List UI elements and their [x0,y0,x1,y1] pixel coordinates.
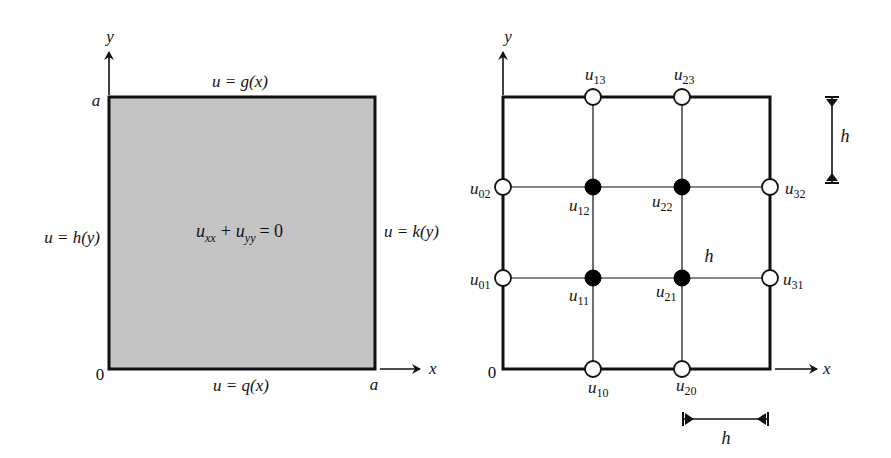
y-axis-label: y [104,27,114,46]
node-u12 [585,179,601,195]
node-u02 [495,179,511,195]
grid-lines [503,97,770,369]
diagram-stage: y x a 0 a u = g(x) u = q(x) u = h(y) u =… [0,0,891,458]
boundary-nodes [495,89,778,377]
label-u11: u11 [569,286,589,308]
node-u22 [674,179,690,195]
label-u10: u10 [588,378,609,400]
interior-spacing-label: h [705,246,714,266]
label-u01: u01 [470,270,491,292]
interior-nodes [585,179,690,286]
left-boundary-condition: u = h(y) [44,228,100,247]
top-boundary-condition: u = g(x) [212,72,268,91]
vertical-spacing-dimension [825,97,839,183]
node-labels: u13 u23 u02 u12 u22 u32 u01 u11 u21 u31 … [470,65,806,400]
y-axis-label: y [502,27,512,46]
vertical-spacing-label: h [841,126,850,146]
laplace-diagram: y x a 0 a u = g(x) u = q(x) u = h(y) u =… [0,0,891,458]
label-u32: u32 [785,179,806,201]
right-corner-label: a [370,375,379,394]
node-u31 [762,270,778,286]
bottom-boundary-condition: u = q(x) [213,376,269,395]
node-u01 [495,270,511,286]
x-axis-label: x [428,359,437,378]
label-u31: u31 [783,270,804,292]
node-u21 [674,270,690,286]
node-u20 [674,361,690,377]
node-u23 [674,89,690,105]
node-u10 [585,361,601,377]
node-u13 [585,89,601,105]
origin-label: 0 [96,365,105,384]
label-u02: u02 [470,179,491,201]
label-u13: u13 [585,65,606,87]
node-u32 [762,179,778,195]
grid-boundary [503,97,770,369]
horizontal-spacing-label: h [722,428,731,448]
label-u21: u21 [656,282,677,304]
node-u11 [585,270,601,286]
left-panel: y x a 0 a u = g(x) u = q(x) u = h(y) u =… [44,27,439,395]
x-axis-label: x [822,359,831,378]
label-u22: u22 [652,192,673,214]
horizontal-spacing-dimension [683,412,768,426]
label-u23: u23 [674,65,695,87]
label-u20: u20 [676,376,697,398]
top-corner-label: a [92,91,101,110]
right-boundary-condition: u = k(y) [384,222,439,241]
origin-label: 0 [488,363,497,382]
label-u12: u12 [569,196,590,218]
right-panel: y x 0 u13 u23 u02 u12 u22 [470,27,850,448]
